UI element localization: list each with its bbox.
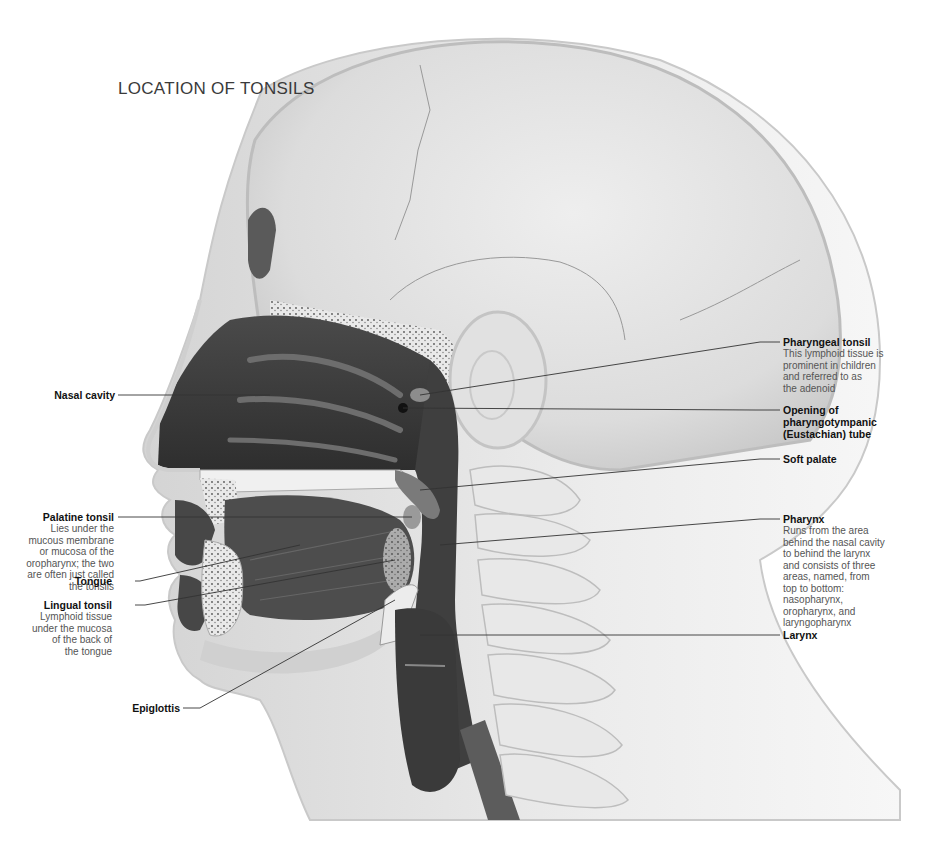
label-description-line: to behind the larynx bbox=[783, 548, 933, 560]
label-pharyngeal-tonsil: Pharyngeal tonsil This lymphoid tissue i… bbox=[783, 336, 933, 394]
label-eustachian-opening: Opening of pharyngotympanic (Eustachian)… bbox=[783, 404, 933, 440]
label-description-line: Runs from the area bbox=[783, 525, 933, 537]
label-pharynx: Pharynx Runs from the area behind the na… bbox=[783, 513, 933, 629]
label-larynx: Larynx bbox=[783, 629, 933, 641]
label-description-line: nasopharynx, bbox=[783, 594, 933, 606]
label-heading: Epiglottis bbox=[90, 702, 180, 714]
label-description-line: or mucosa of the bbox=[0, 546, 114, 558]
ear bbox=[450, 312, 546, 448]
label-heading: Pharynx bbox=[783, 513, 933, 525]
label-description-line: top to bottom: bbox=[783, 583, 933, 595]
label-heading: Tongue bbox=[20, 575, 112, 587]
label-description-line: Lies under the bbox=[0, 523, 114, 535]
label-heading: Palatine tonsil bbox=[0, 511, 114, 523]
label-description-line: and referred to as bbox=[783, 371, 933, 383]
label-heading-line: pharyngotympanic bbox=[783, 416, 933, 428]
label-description-line: the tongue bbox=[10, 646, 112, 658]
label-description-line: the adenoid bbox=[783, 383, 933, 395]
label-heading: Nasal cavity bbox=[20, 389, 115, 401]
label-heading: Soft palate bbox=[783, 453, 933, 465]
label-description-line: of the back of bbox=[10, 634, 112, 646]
label-heading: Larynx bbox=[783, 629, 933, 641]
lingual-tonsil-region bbox=[383, 528, 411, 592]
label-soft-palate: Soft palate bbox=[783, 453, 933, 465]
label-heading: Pharyngeal tonsil bbox=[783, 336, 933, 348]
label-description-line: areas, named, from bbox=[783, 571, 933, 583]
label-heading: Lingual tonsil bbox=[10, 599, 112, 611]
label-epiglottis: Epiglottis bbox=[90, 702, 180, 714]
label-description-line: and consists of three bbox=[783, 560, 933, 572]
label-tongue: Tongue bbox=[20, 575, 112, 587]
label-description-line: behind the nasal cavity bbox=[783, 537, 933, 549]
label-description-line: under the mucosa bbox=[10, 623, 112, 635]
label-heading-line: (Eustachian) tube bbox=[783, 428, 933, 440]
label-description-line: This lymphoid tissue is bbox=[783, 348, 933, 360]
label-description-line: oropharynx; the two bbox=[0, 558, 114, 570]
label-lingual-tonsil: Lingual tonsil Lymphoid tissue under the… bbox=[10, 599, 112, 657]
label-nasal-cavity: Nasal cavity bbox=[20, 389, 115, 401]
anatomy-figure: LOCATION OF TONSILS Nasal cavity Palatin… bbox=[0, 0, 933, 863]
label-description-line: laryngopharynx bbox=[783, 617, 933, 629]
label-description-line: oropharynx, and bbox=[783, 606, 933, 618]
label-description-line: prominent in children bbox=[783, 360, 933, 372]
label-heading-line: Opening of bbox=[783, 404, 933, 416]
label-description-line: Lymphoid tissue bbox=[10, 611, 112, 623]
mandible bbox=[202, 540, 243, 636]
figure-title: LOCATION OF TONSILS bbox=[118, 79, 315, 99]
label-description-line: mucous membrane bbox=[0, 535, 114, 547]
